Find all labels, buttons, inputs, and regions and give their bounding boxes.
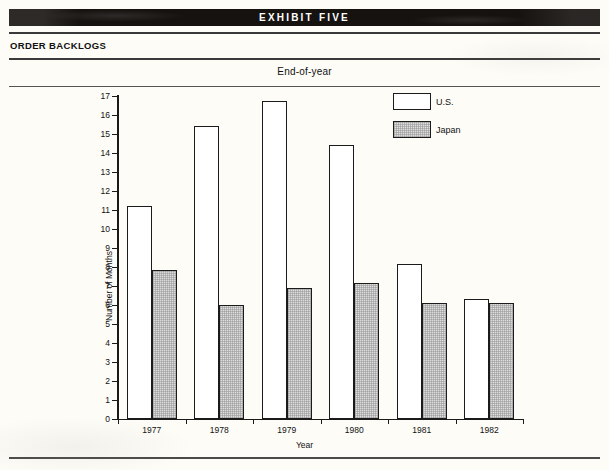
bar-us-1982 <box>464 299 489 419</box>
divider-mid <box>9 58 600 60</box>
divider-sub <box>9 86 600 87</box>
bar-us-1981 <box>397 264 422 419</box>
chart-title: End-of-year <box>0 66 609 77</box>
y-axis-tick <box>112 419 117 420</box>
bar-japan-1982 <box>489 303 514 419</box>
x-axis-tick-label: 1982 <box>456 425 524 435</box>
bar-us-1977 <box>127 206 152 419</box>
y-axis-tick-label: 2 <box>90 376 110 386</box>
y-axis-tick <box>112 381 117 382</box>
y-axis-tick <box>112 172 117 173</box>
y-axis-tick <box>112 343 117 344</box>
x-axis-tick <box>321 419 322 424</box>
legend-swatch <box>393 121 431 138</box>
legend-item: Japan <box>393 121 461 138</box>
bar-japan-1978 <box>219 305 244 419</box>
bar-japan-1981 <box>422 303 447 419</box>
legend-label: U.S. <box>436 97 454 107</box>
y-axis-tick-label: 12 <box>90 186 110 196</box>
y-axis-tick <box>112 362 117 363</box>
y-axis-tick <box>112 229 117 230</box>
divider-bottom <box>9 457 600 459</box>
y-axis-tick-label: 11 <box>90 205 110 215</box>
x-axis-tick-label: 1980 <box>321 425 389 435</box>
y-axis-tick <box>112 324 117 325</box>
y-axis-tick <box>112 153 117 154</box>
y-axis-tick-label: 15 <box>90 129 110 139</box>
legend-item: U.S. <box>393 93 461 110</box>
bar-us-1978 <box>194 126 219 419</box>
x-axis-tick <box>118 419 119 424</box>
plot-area: Number of Months <box>118 96 523 419</box>
y-axis-tick <box>112 210 117 211</box>
x-axis-tick <box>253 419 254 424</box>
y-axis-tick <box>112 96 117 97</box>
exhibit-banner-label: EXHIBIT FIVE <box>259 12 350 23</box>
y-axis-tick <box>112 115 117 116</box>
chart-legend: U.S.Japan <box>393 93 461 149</box>
y-axis-tick <box>112 191 117 192</box>
y-axis-tick-label: 16 <box>90 110 110 120</box>
bar-japan-1979 <box>287 288 312 419</box>
bar-japan-1977 <box>152 270 177 419</box>
x-axis-tick <box>523 419 524 424</box>
y-axis-tick <box>112 400 117 401</box>
y-axis-tick-label: 3 <box>90 357 110 367</box>
bar-us-1980 <box>329 145 354 419</box>
y-axis-tick-label: 17 <box>90 91 110 101</box>
divider-top <box>9 32 600 34</box>
x-axis-tick-label: 1981 <box>388 425 456 435</box>
y-axis-tick <box>112 134 117 135</box>
exhibit-banner-bar: EXHIBIT FIVE <box>9 9 600 26</box>
x-axis-tick <box>456 419 457 424</box>
bar-japan-1980 <box>354 283 379 419</box>
x-axis-tick-label: 1979 <box>253 425 321 435</box>
y-axis-tick-label: 13 <box>90 167 110 177</box>
x-axis-tick-label: 1978 <box>186 425 254 435</box>
bar-us-1979 <box>262 101 287 419</box>
legend-swatch <box>393 93 431 110</box>
x-axis-tick <box>186 419 187 424</box>
y-axis-tick-label: 4 <box>90 338 110 348</box>
exhibit-banner: EXHIBIT FIVE <box>9 9 600 26</box>
y-axis-tick <box>112 248 117 249</box>
y-axis-tick-label: 0 <box>90 414 110 424</box>
y-axis-tick-label: 1 <box>90 395 110 405</box>
y-axis-tick-label: 10 <box>90 224 110 234</box>
y-axis-label: Number of Months <box>104 251 114 321</box>
x-axis-tick <box>388 419 389 424</box>
page-title: ORDER BACKLOGS <box>10 40 106 51</box>
y-axis-tick-label: 14 <box>90 148 110 158</box>
x-axis-label: Year <box>0 440 609 450</box>
x-axis-tick-label: 1977 <box>118 425 186 435</box>
legend-label: Japan <box>436 125 461 135</box>
